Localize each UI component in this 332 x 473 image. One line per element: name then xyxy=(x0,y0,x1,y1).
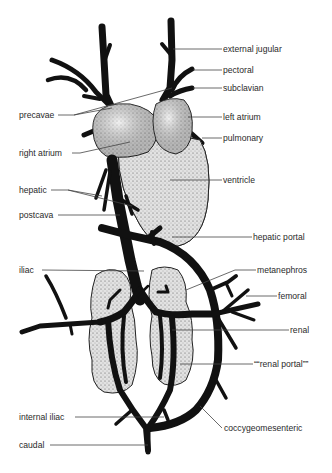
hepatic-vein-1 xyxy=(96,170,106,198)
label-metanephros: metanephros xyxy=(257,265,307,275)
label-ventricle: ventricle xyxy=(223,175,255,185)
right-pectoral-vein xyxy=(48,78,86,90)
label-hepatic: hepatic xyxy=(19,185,47,195)
label-pectoral: pectoral xyxy=(223,65,254,75)
label-coccygeomesenteric: coccygeomesenteric xyxy=(224,423,303,433)
label-subclavian: subclavian xyxy=(223,83,264,93)
right-femoral-branch xyxy=(46,276,66,318)
label-hepatic-portal: hepatic portal xyxy=(253,232,305,242)
label-caudal: caudal xyxy=(19,440,44,450)
label-left-atrium: left atrium xyxy=(223,112,261,122)
label-right-atrium: right atrium xyxy=(19,148,62,158)
right-external-jugular-vein xyxy=(102,27,112,108)
right-femoral-vein xyxy=(22,322,100,332)
branch-upper-right xyxy=(210,276,236,290)
left-internal-iliac-vein xyxy=(164,410,168,420)
label-precavae: precavae xyxy=(19,110,55,120)
label-iliac: iliac xyxy=(19,265,35,275)
label-pulmonary: pulmonary xyxy=(223,133,264,143)
label-renal-portal: ““renal portal”” xyxy=(254,359,309,369)
label-internal-iliac: internal iliac xyxy=(19,412,65,422)
label-femoral: femoral xyxy=(278,291,307,301)
branch-lower-right xyxy=(216,380,226,398)
right-femoral-branch-2 xyxy=(70,324,72,334)
hepatic-portal-branch-2 xyxy=(152,232,154,244)
left-renal-vein xyxy=(160,316,162,378)
label-postcava: postcava xyxy=(19,210,54,220)
venous-system-diagram: external jugular pectoral subclavian pre… xyxy=(0,0,332,473)
label-renal: renal xyxy=(290,325,309,335)
label-external-jugular: external jugular xyxy=(223,44,282,54)
left-femoral-branch-2 xyxy=(232,312,254,320)
branch-upper-right-2 xyxy=(226,283,232,296)
